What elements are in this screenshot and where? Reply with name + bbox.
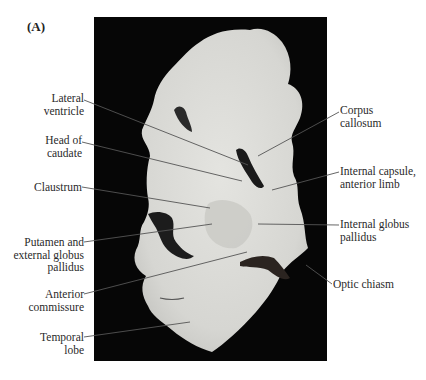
label-internal-capsule-anterior-limb: Internal capsule, anterior limb [340,165,416,190]
label-temporal-lobe: Temporal lobe [16,331,84,356]
label-corpus-callosum: Corpus callosum [340,104,382,129]
label-internal-globus-pallidus: Internal globus pallidus [340,218,409,243]
label-head-of-caudate: Head of caudate [16,134,82,159]
brain-tissue [134,29,308,352]
label-lateral-ventricle: Lateral ventricle [16,92,84,117]
label-optic-chiasm: Optic chiasm [333,278,394,291]
label-anterior-commissure: Anterior commissure [10,288,84,313]
label-putamen-external-globus-pallidus: Putamen and external globus pallidus [4,236,84,274]
label-claustrum: Claustrum [10,181,82,194]
